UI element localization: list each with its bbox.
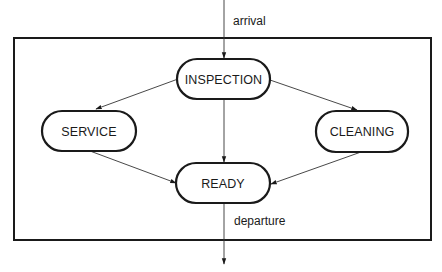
edge-inspection-to-cleaning xyxy=(270,80,357,110)
node-service: SERVICE xyxy=(42,111,136,151)
edge-service-to-ready xyxy=(90,151,176,183)
edge-inspection-to-service xyxy=(96,79,178,109)
node-cleaning: CLEANING xyxy=(316,111,408,152)
node-inspection: INSPECTION xyxy=(177,59,270,99)
node-ready: READY xyxy=(176,163,270,203)
edge-cleaning-to-ready xyxy=(271,152,361,184)
departure-label: departure xyxy=(234,214,286,228)
node-inspection-label: INSPECTION xyxy=(185,73,262,87)
node-ready-label: READY xyxy=(201,177,245,191)
node-cleaning-label: CLEANING xyxy=(330,125,395,139)
node-service-label: SERVICE xyxy=(61,125,116,139)
state-diagram: arrival departure INSPECTION SERVICE CLE… xyxy=(0,0,442,272)
arrival-label: arrival xyxy=(233,14,266,28)
